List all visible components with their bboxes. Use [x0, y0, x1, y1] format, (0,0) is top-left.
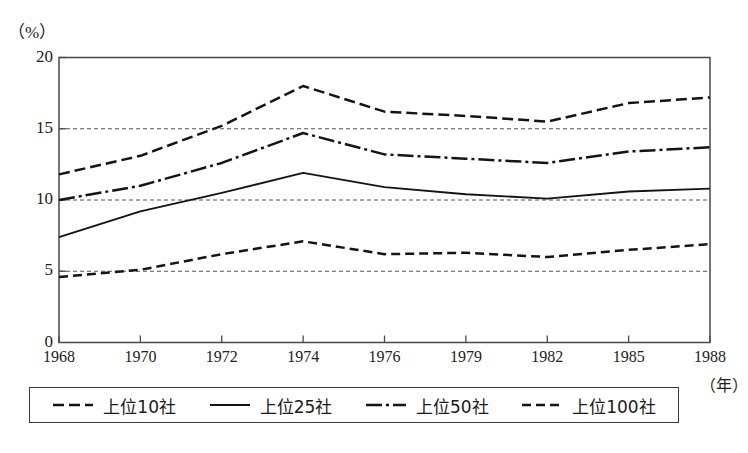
x-axis-tick-label: 1976: [358, 348, 412, 366]
legend-item: 上位100社: [521, 393, 655, 418]
x-axis-tick-label: 1970: [113, 348, 167, 366]
legend-item-label: 上位50社: [416, 393, 489, 418]
x-axis-unit-label: （年）: [700, 372, 748, 396]
series-line-上位50社: [59, 133, 710, 200]
x-axis-tick-label: 1988: [683, 348, 737, 366]
y-axis-tick-label: 10: [13, 189, 53, 209]
legend-item: 上位10社: [52, 393, 176, 418]
legend: 上位10社上位25社上位50社上位100社: [29, 387, 679, 423]
x-axis-tick-label: 1972: [195, 348, 249, 366]
legend-item-label: 上位10社: [103, 393, 176, 418]
fine-dashed-line-icon: [521, 399, 563, 411]
x-axis-tick-label: 1985: [602, 348, 656, 366]
x-axis-tick-label: 1982: [520, 348, 574, 366]
legend-item: 上位25社: [209, 393, 333, 418]
legend-item-label: 上位100社: [572, 393, 655, 418]
series-line-上位25社: [59, 173, 710, 237]
y-axis-unit-label: （%）: [8, 18, 56, 43]
dash-dot-line-icon: [365, 399, 407, 411]
series-line-上位100社: [59, 86, 710, 174]
legend-item-label: 上位25社: [260, 393, 333, 418]
data-series-layer: [59, 86, 710, 277]
y-axis-tick-label: 20: [13, 47, 53, 67]
x-axis-tick-label: 1974: [276, 348, 330, 366]
solid-line-icon: [209, 399, 251, 411]
y-axis-tick-label: 15: [13, 118, 53, 138]
dashed-line-icon: [52, 399, 94, 411]
y-axis-tick-label: 5: [13, 260, 53, 280]
chart-container: （%） （年） 05101520 19681970197219741976197…: [0, 0, 748, 453]
x-axis-tick-label: 1979: [439, 348, 493, 366]
x-axis-tick-label: 1968: [32, 348, 86, 366]
legend-item: 上位50社: [365, 393, 489, 418]
line-chart-plot: [0, 0, 748, 453]
